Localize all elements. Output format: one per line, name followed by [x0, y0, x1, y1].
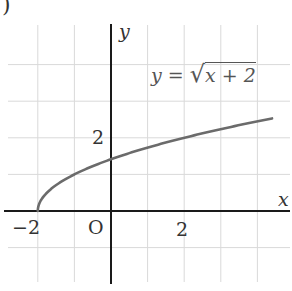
- y-axis-label: y: [119, 22, 130, 41]
- x-axis-label: x: [278, 190, 289, 209]
- sqrt-curve: [38, 118, 272, 211]
- plot-area: [0, 0, 292, 291]
- origin-label: O: [88, 218, 104, 237]
- equation-radicand: x + 2: [205, 62, 256, 86]
- x-tick-neg2: −2: [12, 218, 40, 237]
- equation-lhs: y =: [151, 64, 184, 86]
- y-tick-2: 2: [92, 128, 104, 147]
- sqrt-icon: √: [190, 60, 205, 88]
- corner-paren: ): [2, 0, 11, 16]
- graph-figure: ) y x O −2 2 2 y = √x + 2: [0, 0, 292, 291]
- equation-label: y = √x + 2: [151, 62, 256, 86]
- x-tick-2: 2: [176, 220, 188, 239]
